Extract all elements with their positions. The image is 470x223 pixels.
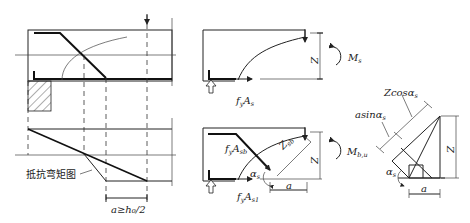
bent-force-label: fyAsb [224,143,247,156]
diagonal-dimension-line [380,104,428,149]
reference-line [305,137,311,142]
lever-arm-label: Z [309,56,320,65]
moment-arc-icon [334,47,341,65]
steel-force-label: fyAs [235,95,255,108]
bent-force-arrow [258,157,270,170]
moment-diagram: 抵抗弯矩图 a≥h₀/2 [15,118,176,215]
free-body-straight-bar: Z fyAs Ms [203,29,362,108]
lever-arm-zsb-label: Zsb [276,133,296,153]
label-leader [80,170,92,174]
moment-label: Mb,u [346,146,368,159]
geometry-triangle [409,116,440,178]
straight-force-label: fyAs1 [236,191,259,204]
resisting-moment-line [84,154,172,181]
dimension-tick [394,132,402,139]
free-body-bent-bar: Zsb Z αs a fyAsb fyAs1 Mb,u [203,127,368,204]
offset-a-label: a [286,180,292,191]
label-leader [382,122,389,137]
longitudinal-bar [209,170,236,179]
support-column [28,81,51,111]
support-reaction-arrow [206,80,216,93]
label-leader [402,95,412,117]
geometry-inner-line [401,148,432,178]
height-z-label: Z [445,145,456,154]
angle-label: αs [386,166,397,179]
support-reaction-arrow [206,180,216,193]
moment-arc-icon [334,141,341,159]
moment-label: Ms [347,52,362,65]
a-sin-label: asinαs [355,109,387,122]
freebody-outline [203,30,305,81]
dimension-a-label: a≥h₀/2 [111,204,146,215]
z-cos-label: Zcosαs [383,87,418,100]
bent-up-bar [34,33,106,78]
base-a-label: a [421,183,427,194]
geometry-outer-edge [392,116,440,161]
geometry-detail: Zcosαs asinαs Z αs a [355,87,459,198]
crack-curve [238,37,305,80]
lever-arm-label: Z [309,156,320,165]
diagram-canvas: 抵抗弯矩图 a≥h₀/2 Z fyAs Ms [0,0,470,223]
longitudinal-bar [209,70,236,79]
dimension-tick [376,146,384,153]
resisting-moment-label: 抵抗弯矩图 [26,168,76,180]
